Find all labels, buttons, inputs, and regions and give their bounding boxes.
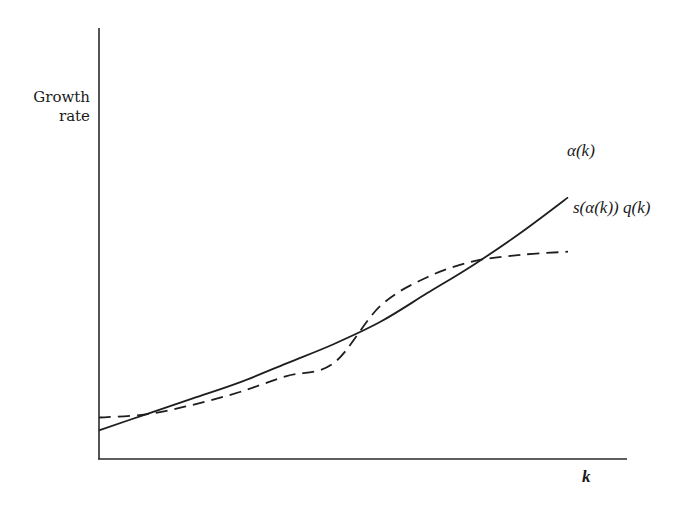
y-axis-label-line1: Growth [18,88,90,107]
savings-q-curve-label: s(α(k)) q(k) [573,198,650,218]
alpha-curve [99,197,568,430]
alpha-curve-label: α(k) [567,141,595,161]
x-axis-label: k [582,467,591,487]
y-axis-label-line2: rate [18,107,90,126]
savings-q-curve [99,252,568,418]
y-axis-label: Growth rate [18,88,90,126]
chart-canvas [0,0,693,513]
